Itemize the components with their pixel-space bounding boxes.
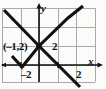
y-tick-label-2: 2: [52, 41, 58, 52]
graph-figure: (–1,2) y x 2 –2 2: [0, 0, 106, 89]
v-shape-curve: [12, 6, 83, 67]
point-label: (–1,2): [3, 41, 27, 52]
x-tick-label-negative-2: –2: [21, 69, 31, 80]
y-axis-label: y: [41, 3, 46, 14]
x-tick-label-2: 2: [76, 69, 82, 80]
x-axis-arrow: [98, 62, 104, 67]
x-axis-label: x: [88, 56, 94, 67]
